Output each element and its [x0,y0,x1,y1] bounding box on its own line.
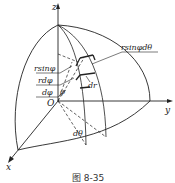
label-rsinphidtheta: rsinφdθ [121,43,152,52]
label-dphi: dφ [42,88,53,97]
radius-projection-1 [58,101,86,145]
y-arrow-icon [167,99,173,103]
z-axis-label: z [51,2,57,12]
origin-label: O [47,98,55,108]
spherical-volume-element-diagram: z y x O rsinφdθ rsinφ rdφ dφ dr φ dθ 图 8… [0,0,175,183]
leader-rsinphidtheta [92,52,122,64]
label-dtheta: dθ [73,129,83,138]
x-axis-label: x [6,162,11,172]
y-axis-label: y [164,105,171,115]
meridian-1 [58,25,86,145]
x-axis [10,101,58,160]
figure-caption: 图 8-35 [72,173,104,183]
label-dr: dr [88,81,98,90]
label-rdphi: rdφ [38,76,53,85]
label-phi: φ [60,88,65,96]
label-rsinphi: rsinφ [34,64,56,73]
